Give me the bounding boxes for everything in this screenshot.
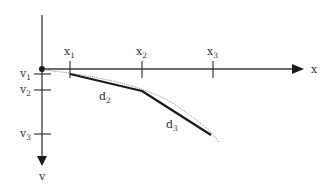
d2-label: d2 [99, 90, 111, 105]
x2-label: x2 [136, 45, 147, 60]
x1-label: x1 [64, 45, 75, 60]
x-axis-arrow-icon [292, 64, 304, 74]
origin-dot [39, 66, 45, 72]
v2-label: v2 [19, 83, 31, 98]
d3-label: d3 [166, 118, 178, 133]
smooth-curve [44, 70, 219, 142]
piecewise-path [70, 74, 211, 135]
v-axis-arrow-icon [37, 156, 47, 166]
x3-label: x3 [207, 45, 218, 60]
v1-label: v1 [19, 67, 31, 82]
x-axis-label: x [311, 63, 318, 76]
v3-label: v3 [19, 127, 31, 142]
diagram-canvas: x1 x2 x3 v1 v2 v3 d2 d3 x v [0, 0, 336, 184]
v-axis-label: v [38, 170, 46, 183]
